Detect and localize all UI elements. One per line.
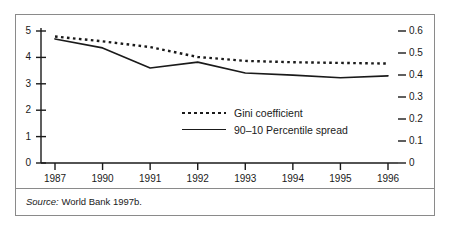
legend-label-gini: Gini coefficient bbox=[228, 107, 303, 119]
solid-line-icon bbox=[180, 125, 228, 135]
x-tick-1994: 1994 bbox=[273, 174, 313, 184]
source-keyword: Source: bbox=[26, 196, 59, 207]
y-tick-right-0.6: 0.6 bbox=[409, 26, 437, 36]
y-tick-right-0.2: 0.2 bbox=[409, 114, 437, 124]
y-tick-left-0: 0 bbox=[15, 158, 31, 168]
x-tick-1993: 1993 bbox=[225, 174, 265, 184]
y-tick-right-0.4: 0.4 bbox=[409, 70, 437, 80]
tick-marks bbox=[36, 31, 406, 170]
x-tick-1990: 1990 bbox=[83, 174, 123, 184]
figure-container: 012345 00.10.20.30.40.50.6 1987199019911… bbox=[0, 0, 452, 231]
series-line-0 bbox=[55, 37, 388, 64]
dotted-line-icon bbox=[180, 108, 228, 118]
y-tick-left-1: 1 bbox=[15, 132, 31, 142]
legend-item-gini: Gini coefficient bbox=[180, 104, 390, 121]
y-tick-left-5: 5 bbox=[15, 26, 31, 36]
y-tick-right-0.5: 0.5 bbox=[409, 48, 437, 58]
x-tick-1996: 1996 bbox=[368, 174, 408, 184]
x-tick-1987: 1987 bbox=[35, 174, 75, 184]
source-text: World Bank 1997b. bbox=[59, 196, 142, 207]
legend-label-percentile-spread: 90–10 Percentile spread bbox=[228, 124, 348, 136]
y-tick-right-0.3: 0.3 bbox=[409, 92, 437, 102]
y-tick-left-2: 2 bbox=[15, 105, 31, 115]
y-tick-left-4: 4 bbox=[15, 52, 31, 62]
y-tick-right-0.1: 0.1 bbox=[409, 136, 437, 146]
legend-item-percentile-spread: 90–10 Percentile spread bbox=[180, 121, 390, 138]
x-tick-1991: 1991 bbox=[130, 174, 170, 184]
y-tick-right-0: 0 bbox=[409, 158, 437, 168]
source-note: Source: World Bank 1997b. bbox=[26, 196, 142, 207]
chart-legend: Gini coefficient 90–10 Percentile spread bbox=[180, 104, 390, 138]
y-tick-left-3: 3 bbox=[15, 79, 31, 89]
series-paths bbox=[55, 37, 388, 78]
axis-lines bbox=[41, 28, 398, 163]
x-tick-1992: 1992 bbox=[178, 174, 218, 184]
source-divider bbox=[16, 188, 434, 189]
x-tick-1995: 1995 bbox=[320, 174, 360, 184]
